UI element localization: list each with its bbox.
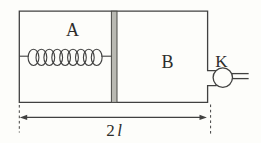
valve-label: K (215, 52, 228, 71)
left-arrowhead-icon (20, 115, 27, 120)
dimension-label-number: 2 (106, 121, 115, 140)
dimension-arrow (20, 115, 207, 120)
chamber-a-label: A (66, 20, 79, 40)
spring-coil (91, 49, 102, 65)
piston (111, 11, 117, 102)
physics-figure: A B K 2 l (0, 0, 261, 143)
dimension-label-symbol: l (117, 121, 122, 140)
valve-circle (213, 68, 232, 87)
chamber-b-label: B (161, 52, 173, 72)
right-arrowhead-icon (200, 115, 207, 120)
vessel-outline (19, 11, 216, 102)
vessel-diagram: A B K 2 l (0, 0, 261, 143)
spring (19, 49, 111, 65)
